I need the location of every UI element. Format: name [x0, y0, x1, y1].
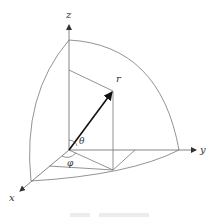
- y-axis-label: y: [199, 144, 206, 155]
- phi-label: φ: [67, 158, 74, 168]
- x-axis: [20, 150, 69, 191]
- z-projection-line: [69, 70, 113, 91]
- caption-placeholder-word-2: [99, 213, 149, 217]
- caption-placeholder-word-1: [70, 213, 90, 217]
- sphere-arc-bottom: [31, 150, 179, 181]
- sphere-arc-left: [30, 40, 69, 181]
- theta-label: θ: [79, 136, 85, 146]
- diagram-svg: z y x r θ φ: [0, 0, 216, 221]
- z-axis-label: z: [65, 9, 72, 20]
- sphere-arc-top: [69, 40, 179, 150]
- x-parallel-line: [49, 166, 113, 170]
- position-vector-r: [69, 92, 112, 150]
- point-r-label: r: [116, 73, 122, 84]
- x-axis-label: x: [9, 192, 15, 203]
- spherical-coordinates-diagram: z y x r θ φ: [0, 0, 216, 221]
